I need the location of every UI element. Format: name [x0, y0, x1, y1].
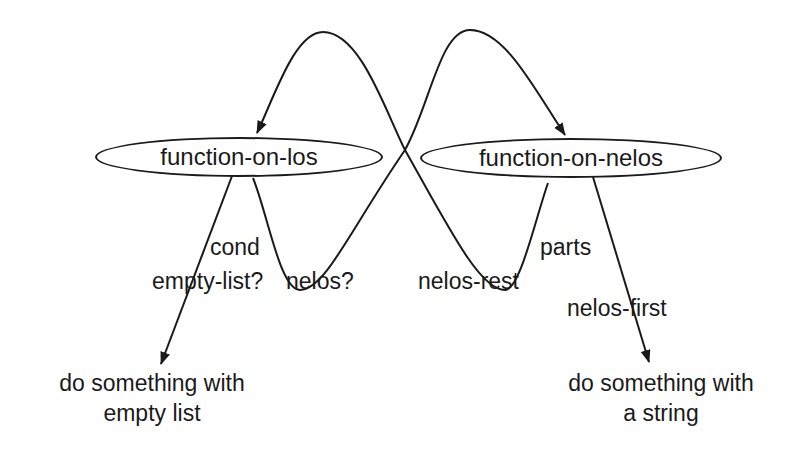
node-label: function-on-los — [160, 143, 317, 171]
terminal-line: do something with — [18, 368, 286, 398]
edge-label-nelos-first: nelos-first — [567, 297, 667, 320]
edge-label-empty-list: empty-list? — [152, 270, 263, 293]
node-function-on-los: function-on-los — [95, 137, 383, 177]
edge-nelos-to-string — [593, 177, 649, 362]
edge-label-nelos-rest: nelos-rest — [418, 270, 519, 293]
terminal-empty-list: do something with empty list — [18, 368, 286, 428]
edge-label-cond: cond — [210, 236, 260, 259]
terminal-line: a string — [536, 398, 786, 428]
node-function-on-nelos: function-on-nelos — [420, 138, 722, 178]
terminal-string: do something with a string — [536, 368, 786, 428]
terminal-line: empty list — [18, 398, 286, 428]
terminal-line: do something with — [536, 368, 786, 398]
node-label: function-on-nelos — [479, 144, 663, 172]
edge-label-nelos-q: nelos? — [286, 270, 354, 293]
edge-label-parts: parts — [540, 236, 591, 259]
